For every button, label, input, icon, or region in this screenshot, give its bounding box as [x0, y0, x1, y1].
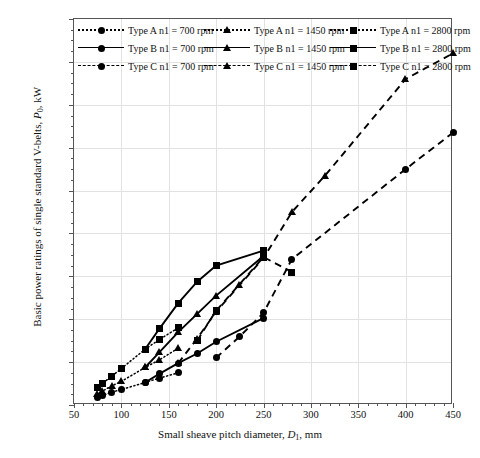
x-axis-tick-label: 300	[303, 409, 319, 420]
series-line-c-700	[216, 133, 453, 358]
data-point-square	[213, 262, 220, 269]
data-point-square	[194, 337, 201, 344]
data-point-triangle	[174, 359, 182, 366]
data-point-square	[108, 373, 115, 380]
data-point-square	[288, 269, 295, 276]
data-point-circle	[118, 386, 125, 393]
data-point-triangle	[155, 348, 163, 355]
data-point-square	[260, 254, 267, 261]
data-point-triangle	[108, 382, 116, 389]
x-axis-tick-label: 50	[69, 409, 80, 420]
data-point-circle	[450, 129, 457, 136]
data-point-triangle	[174, 328, 182, 335]
x-axis-tick-label: 200	[208, 409, 224, 420]
data-point-triangle	[174, 344, 182, 351]
series-lines-layer	[74, 19, 453, 405]
data-point-triangle	[141, 363, 149, 370]
data-point-square	[99, 380, 106, 387]
data-point-circle	[213, 338, 220, 345]
data-point-triangle	[212, 292, 220, 299]
data-point-circle	[402, 166, 409, 173]
data-point-triangle	[288, 208, 296, 215]
data-point-triangle	[117, 377, 125, 384]
data-point-square	[118, 365, 125, 372]
data-point-circle	[213, 354, 220, 361]
data-point-square	[194, 278, 201, 285]
data-point-triangle	[321, 172, 329, 179]
data-point-square	[156, 336, 163, 343]
plot-area: 024681012141618 501001502002503003504004…	[73, 18, 452, 404]
x-axis-title: Small sheave pitch diameter, D1, mm	[0, 428, 480, 442]
data-point-square	[142, 346, 149, 353]
data-point-square	[175, 300, 182, 307]
data-point-triangle	[449, 49, 457, 56]
x-axis-tick-label: 400	[398, 409, 414, 420]
x-axis-tick-label: 250	[256, 409, 272, 420]
y-axis-title: Basic power ratings of single standard V…	[31, 14, 45, 400]
series-line-b-2800	[145, 251, 263, 350]
data-point-circle	[194, 350, 201, 357]
data-point-triangle	[155, 356, 163, 363]
x-axis-tick-label: 150	[161, 409, 177, 420]
chart-figure: 024681012141618 501001502002503003504004…	[0, 0, 480, 458]
data-point-circle	[142, 379, 149, 386]
x-axis-tick-label: 350	[350, 409, 366, 420]
series-line-c-1450	[178, 53, 453, 363]
data-point-triangle	[401, 75, 409, 82]
data-point-triangle	[193, 310, 201, 317]
data-point-triangle	[235, 281, 243, 288]
x-tick-major	[453, 403, 454, 408]
data-point-square	[213, 307, 220, 314]
x-axis-tick-label: 100	[114, 409, 130, 420]
data-point-square	[156, 325, 163, 332]
x-axis-tick-label: 450	[445, 409, 461, 420]
